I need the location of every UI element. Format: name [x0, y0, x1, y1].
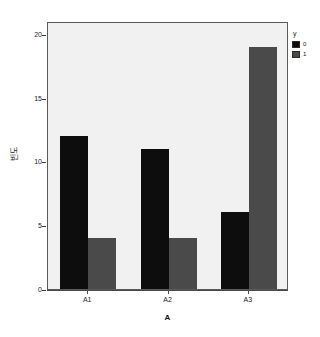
legend-item: 1: [292, 50, 320, 59]
legend-item: 0: [292, 40, 320, 49]
y-tick-mark: [42, 99, 46, 100]
x-axis-title: A: [47, 313, 288, 322]
y-tick-label: 10: [26, 158, 42, 165]
y-tick-label: 15: [26, 95, 42, 102]
bar-chart: 빈도 05101520 A1A2A3 A y 01: [0, 0, 320, 337]
y-tick-label: 0: [26, 286, 42, 293]
x-tick-mark: [168, 290, 169, 294]
legend-title: y: [292, 30, 320, 38]
y-tick-mark: [42, 290, 46, 291]
x-tick-mark: [87, 290, 88, 294]
y-axis-ticks: 05101520: [24, 0, 42, 337]
legend-swatch-icon: [292, 51, 300, 58]
y-tick-label: 20: [26, 31, 42, 38]
plot-area: [47, 22, 288, 290]
bar: [60, 136, 88, 289]
bar: [141, 149, 169, 289]
y-tick-label: 5: [26, 222, 42, 229]
plot-inner: [48, 23, 287, 289]
y-axis-title: 빈도: [8, 134, 19, 174]
y-tick-mark: [42, 226, 46, 227]
bar: [249, 47, 277, 289]
x-tick-label: A2: [148, 296, 188, 303]
bar: [169, 238, 197, 289]
legend: y 01: [292, 30, 320, 60]
y-tick-mark: [42, 35, 46, 36]
legend-label: 1: [303, 51, 306, 58]
legend-label: 0: [303, 41, 306, 48]
x-tick-label: A3: [228, 296, 268, 303]
y-tick-mark: [42, 162, 46, 163]
x-tick-mark: [248, 290, 249, 294]
x-tick-label: A1: [67, 296, 107, 303]
legend-entries: 01: [292, 40, 320, 59]
bar: [88, 238, 116, 289]
bar: [221, 212, 249, 289]
legend-swatch-icon: [292, 41, 300, 48]
